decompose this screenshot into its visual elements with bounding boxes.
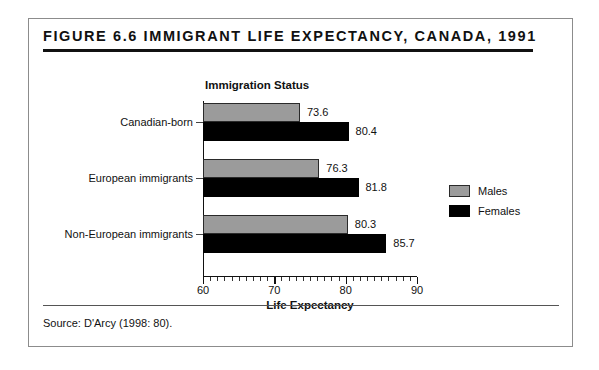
bar-value-label: 81.8 — [366, 178, 387, 197]
x-tick-minor — [367, 277, 368, 281]
source-rule — [43, 305, 559, 306]
bar-females[interactable] — [203, 234, 386, 253]
legend-label: Females — [478, 205, 520, 217]
x-tick-minor — [217, 277, 218, 281]
x-tick-minor — [310, 277, 311, 281]
x-tick-minor — [281, 277, 282, 281]
title-rule — [43, 49, 533, 52]
x-tick-minor — [324, 277, 325, 281]
x-axis-ticks: 60708090 — [203, 277, 423, 284]
x-tick-label: 80 — [340, 284, 352, 296]
legend-item[interactable]: Males — [449, 181, 520, 201]
x-tick-minor — [374, 277, 375, 281]
x-tick-minor — [396, 277, 397, 281]
legend: MalesFemales — [449, 181, 520, 221]
x-tick-minor — [224, 277, 225, 281]
category-label: Canadian-born — [120, 116, 193, 128]
x-tick-minor — [246, 277, 247, 281]
legend-swatch-icon — [449, 205, 470, 217]
x-tick-minor — [388, 277, 389, 281]
x-tick-minor — [296, 277, 297, 281]
category-tick — [196, 178, 203, 179]
x-tick-label: 60 — [197, 284, 209, 296]
bar-males[interactable] — [203, 215, 348, 234]
bar-value-label: 85.7 — [393, 234, 414, 253]
category-label: European immigrants — [88, 172, 193, 184]
x-tick-minor — [267, 277, 268, 281]
bar-females[interactable] — [203, 122, 349, 141]
bar-value-label: 80.3 — [355, 215, 376, 234]
source-note: Source: D'Arcy (1998: 80). — [43, 317, 172, 329]
x-tick-minor — [403, 277, 404, 281]
x-tick-minor — [260, 277, 261, 281]
x-tick-minor — [289, 277, 290, 281]
x-tick-minor — [331, 277, 332, 281]
category-tick — [196, 234, 203, 235]
bar-value-label: 73.6 — [307, 103, 328, 122]
x-tick-minor — [303, 277, 304, 281]
x-tick-minor — [353, 277, 354, 281]
legend-swatch-icon — [449, 185, 470, 197]
figure-frame: Figure 6.6 Immigrant Life Expectancy, Ca… — [28, 18, 573, 347]
legend-label: Males — [478, 185, 507, 197]
category-label: Non-European immigrants — [65, 228, 193, 240]
x-tick-major — [203, 277, 204, 284]
x-tick-minor — [339, 277, 340, 281]
x-tick-major — [346, 277, 347, 284]
bar-value-label: 80.4 — [356, 122, 377, 141]
x-tick-minor — [317, 277, 318, 281]
x-tick-label: 70 — [268, 284, 280, 296]
x-tick-major — [274, 277, 275, 284]
bar-value-label: 76.3 — [326, 159, 347, 178]
x-tick-minor — [360, 277, 361, 281]
x-tick-minor — [232, 277, 233, 281]
x-tick-minor — [239, 277, 240, 281]
chart-area: Immigration Status 73.680.4Canadian-born… — [29, 55, 574, 295]
plot-area: 73.680.4Canadian-born76.381.8European im… — [203, 101, 447, 277]
x-tick-minor — [410, 277, 411, 281]
x-tick-label: 90 — [411, 284, 423, 296]
bar-males[interactable] — [203, 103, 300, 122]
x-tick-minor — [210, 277, 211, 281]
x-tick-minor — [253, 277, 254, 281]
x-tick-major — [417, 277, 418, 284]
x-tick-minor — [381, 277, 382, 281]
legend-item[interactable]: Females — [449, 201, 520, 221]
bar-males[interactable] — [203, 159, 319, 178]
page-title: Figure 6.6 Immigrant Life Expectancy, Ca… — [43, 28, 537, 44]
category-tick — [196, 122, 203, 123]
y-axis-title: Immigration Status — [205, 79, 309, 91]
bar-females[interactable] — [203, 178, 359, 197]
